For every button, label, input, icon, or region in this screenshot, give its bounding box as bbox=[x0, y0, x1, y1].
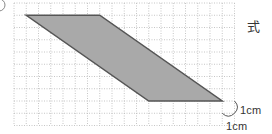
horizontal-unit-label: 1cm bbox=[226, 120, 247, 132]
formula-label: 式 bbox=[247, 16, 260, 35]
parallelogram-diagram bbox=[0, 0, 272, 134]
question-number-circle-icon bbox=[0, 0, 5, 11]
unit-scale-brackets bbox=[222, 101, 237, 116]
vertical-unit-label: 1cm bbox=[240, 104, 261, 116]
